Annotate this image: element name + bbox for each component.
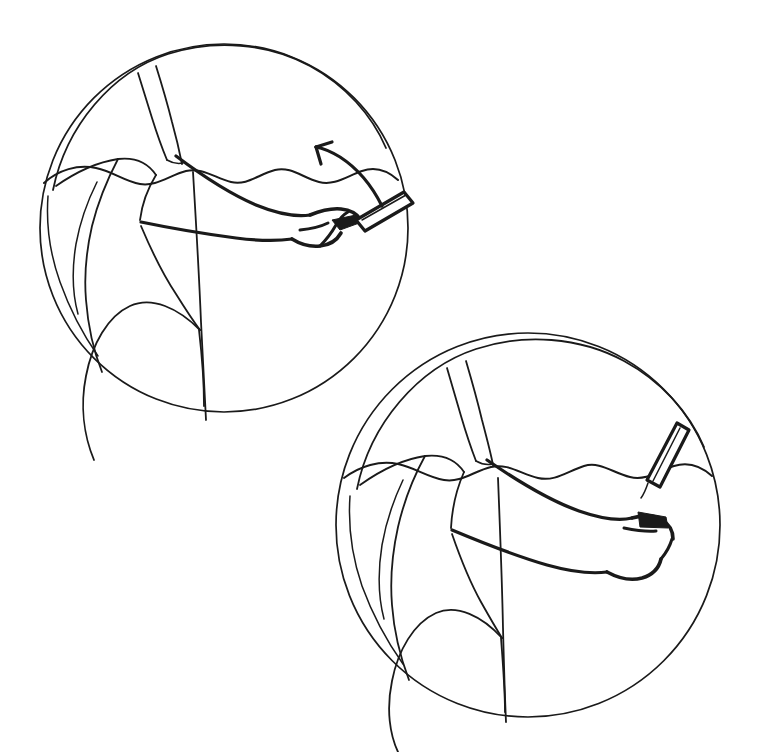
hand-lower-contour xyxy=(292,233,341,246)
finger-crease xyxy=(300,223,328,230)
phone-portrait xyxy=(647,423,689,487)
panel-after xyxy=(336,333,720,752)
waist-curve-2 xyxy=(452,534,502,638)
panel-before xyxy=(40,44,413,460)
strap-right-line xyxy=(156,66,182,164)
phone-landscape xyxy=(356,192,413,231)
strap-right-line-2 xyxy=(466,361,493,465)
head-top-outline xyxy=(53,45,386,190)
arm-lower-edge xyxy=(141,222,292,240)
finger-crease-2 xyxy=(624,528,656,531)
grip-shadow-2 xyxy=(638,512,668,528)
phone-portrait-base-edge xyxy=(641,483,648,498)
line-drawing xyxy=(0,0,771,752)
arm-upper-edge xyxy=(176,156,310,216)
rotate-arrow-head-upper xyxy=(316,142,332,147)
torso-left-outline xyxy=(85,159,118,372)
hip-curve-2 xyxy=(389,610,502,752)
shoulder-upper-left xyxy=(56,159,156,186)
left-body-fold-2 xyxy=(350,496,404,664)
torso-left-outline-2 xyxy=(391,456,425,680)
arm-lower-edge-2 xyxy=(452,530,607,573)
armpit-line xyxy=(140,175,156,220)
waist-curve xyxy=(141,226,200,330)
pinky-edge-2 xyxy=(661,539,672,559)
hip-curve xyxy=(83,302,200,460)
hand-lower-contour-2 xyxy=(607,559,661,579)
illustration-canvas: Rotate phone from landscape to portrait … xyxy=(0,0,771,752)
